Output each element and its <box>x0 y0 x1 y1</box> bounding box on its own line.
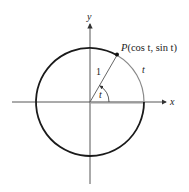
angle-label: t <box>99 89 102 100</box>
arc-t <box>117 55 144 102</box>
arc-length-label: t <box>142 64 145 75</box>
radius-line <box>90 55 117 102</box>
point-label-coords: (cos t, sin t) <box>127 42 177 54</box>
unit-circle-diagram: y x P(cos t, sin t) 1 t t <box>0 0 189 192</box>
point-label: P(cos t, sin t) <box>120 42 178 54</box>
y-axis-label: y <box>86 11 92 22</box>
radius-label: 1 <box>96 66 101 77</box>
point-p <box>115 53 119 57</box>
x-axis-label: x <box>169 96 175 107</box>
